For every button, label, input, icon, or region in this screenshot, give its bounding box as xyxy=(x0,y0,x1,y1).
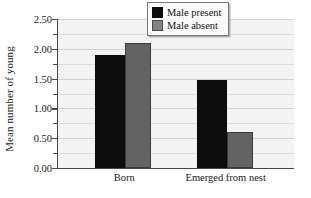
y-axis-tick-mark xyxy=(52,19,58,20)
y-axis-tick-mark xyxy=(53,153,58,154)
y-axis-tick-mark xyxy=(52,138,58,139)
legend-swatch-male-absent xyxy=(152,20,163,31)
bar-male-present xyxy=(197,80,227,168)
y-axis-tick-mark xyxy=(53,94,58,95)
legend-entry: Male present xyxy=(152,6,222,19)
y-axis-tick-label: 1.50 xyxy=(20,73,52,84)
legend-label-male-present: Male present xyxy=(167,7,222,19)
y-axis-tick-label: 0.50 xyxy=(20,133,52,144)
legend-entry: Male absent xyxy=(152,19,222,32)
y-axis-tick-mark xyxy=(53,64,58,65)
y-axis-tick-mark xyxy=(52,49,58,50)
legend-swatch-male-present xyxy=(152,7,163,18)
bar-group-container xyxy=(58,19,294,168)
y-axis-tick-label: 0.00 xyxy=(20,163,52,174)
y-axis-tick-label: 1.00 xyxy=(20,103,52,114)
y-axis-tick-mark xyxy=(53,123,58,124)
bar-male-absent xyxy=(125,43,151,168)
plot-area xyxy=(57,19,294,169)
x-axis-tick-labels: BornEmerged from nest xyxy=(57,172,293,192)
y-axis-tick-mark xyxy=(53,34,58,35)
legend-label-male-absent: Male absent xyxy=(167,20,218,32)
x-axis-category-label: Born xyxy=(114,172,135,183)
chart-legend: Male present Male absent xyxy=(147,2,229,36)
bar-chart-figure: Mean number of young 0.000.501.001.502.0… xyxy=(0,0,311,198)
y-axis-tick-mark xyxy=(52,79,58,80)
y-axis-tick-label: 2.50 xyxy=(20,14,52,25)
x-axis-category-label: Emerged from nest xyxy=(186,172,266,183)
bar-male-present xyxy=(95,55,125,168)
y-axis-tick-label: 2.00 xyxy=(20,43,52,54)
y-axis-tick-mark xyxy=(52,108,58,109)
y-axis-title: Mean number of young xyxy=(0,0,18,198)
y-axis-tick-mark xyxy=(52,168,58,169)
y-axis-tick-labels: 0.000.501.001.502.002.50 xyxy=(20,0,52,198)
bar-male-absent xyxy=(227,132,253,168)
